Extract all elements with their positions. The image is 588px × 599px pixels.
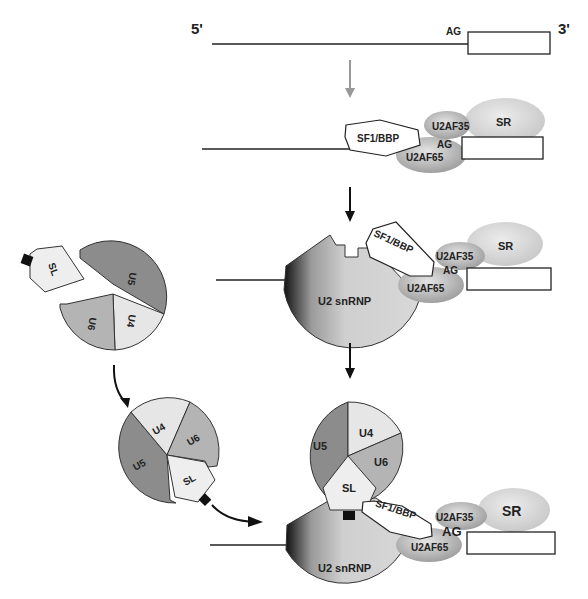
step-4-full-complex: U2 snRNP U5 U4 U6 SL SR U2AF35 AG U2AF65… <box>210 402 555 583</box>
sr-label: SR <box>502 503 521 519</box>
splicing-diagram: 5' 3' AG SR U2AF35 AG U2AF65 SF1/BBP U2 … <box>0 0 588 599</box>
u6-label: U6 <box>86 317 99 332</box>
u6-label: U6 <box>374 456 388 468</box>
sr-label: SR <box>496 116 511 128</box>
free-tri-snrnp: U5 U4 U6 SL <box>21 241 167 350</box>
exon-box <box>467 532 555 554</box>
sl-label: SL <box>342 482 356 494</box>
u2af35-label: U2AF35 <box>436 251 474 262</box>
u2af65-label: U2AF65 <box>406 152 444 163</box>
u5-label: U5 <box>313 440 327 452</box>
ag-label: AG <box>437 139 452 150</box>
u2-label: U2 snRNP <box>318 295 371 307</box>
sf1-label: SF1/BBP <box>357 133 400 144</box>
black-arrow <box>345 187 355 222</box>
exon-box <box>462 137 543 159</box>
step-3-u2-complex: U2 snRNP SR U2AF35 AG U2AF65 SF1/BBP <box>216 222 551 348</box>
assembling-tri-snrnp: U5 U4 U6 SL <box>119 398 219 506</box>
u2-label: U2 snRNP <box>318 562 371 574</box>
u5-label: U5 <box>125 272 138 287</box>
exon-box <box>468 32 550 54</box>
ag-label: AG <box>446 26 461 37</box>
u2af65-label: U2AF65 <box>407 283 445 294</box>
curved-arrow-down <box>114 365 130 408</box>
sr-label: SR <box>498 240 513 252</box>
u2af35-label: U2AF35 <box>436 512 474 523</box>
gray-arrow <box>345 60 355 98</box>
five-prime-label: 5' <box>191 20 203 37</box>
step-2-complex: SR U2AF35 AG U2AF65 SF1/BBP <box>202 98 545 173</box>
curved-arrow-right <box>212 505 263 527</box>
ag-label: AG <box>443 265 458 276</box>
three-prime-label: 3' <box>558 20 570 37</box>
ag-label: AG <box>442 524 462 539</box>
u4-label: U4 <box>359 427 374 439</box>
step-1-premrna: 5' 3' AG <box>191 20 570 54</box>
u2af35-label: U2AF35 <box>432 121 470 132</box>
exon-box <box>467 268 551 290</box>
u2af65-label: U2AF65 <box>411 542 449 553</box>
sl-black-tag <box>343 511 355 520</box>
u4-label: U4 <box>125 314 138 329</box>
